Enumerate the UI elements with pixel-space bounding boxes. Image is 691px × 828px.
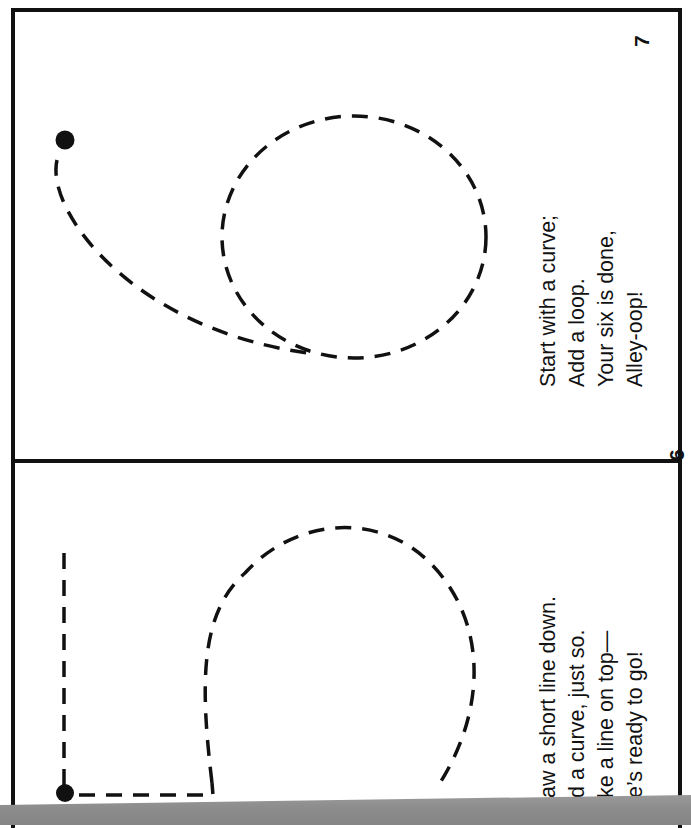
verse-line: ke a line on top— (592, 596, 621, 798)
verse-page-7: Start with a curve; Add a loop. Your six… (534, 215, 650, 387)
verse-line: Your six is done, (592, 215, 621, 387)
page-6: 6 aw a short line down. d a curve, just … (15, 463, 678, 823)
verse-line: e’s ready to go! (621, 596, 650, 798)
page-number-6-text: 6 (665, 449, 689, 461)
verse-line: Add a loop. (563, 215, 592, 387)
page-number-6: 6 (630, 449, 654, 461)
verse-line: Alley-oop! (621, 215, 650, 387)
verse-page-6: aw a short line down. d a curve, just so… (534, 596, 650, 798)
start-dot-icon (56, 131, 75, 150)
page-number-7: 7 (630, 35, 654, 47)
verse-line: d a curve, just so. (563, 596, 592, 798)
verse-line: Start with a curve; (534, 215, 563, 387)
start-dot-icon (56, 784, 74, 802)
page-7: 7 Start with a curve; Add a loop. Your s… (15, 12, 678, 459)
verse-line: aw a short line down. (534, 596, 563, 798)
